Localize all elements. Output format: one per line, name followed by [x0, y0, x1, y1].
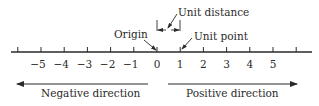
tick-label: 3 — [223, 58, 230, 70]
tick-labels: −5−4−3−2−1012345 — [30, 58, 276, 70]
tick-label: −3 — [77, 58, 92, 70]
unit-distance-label: Unit distance — [178, 6, 249, 18]
tick-label: 2 — [200, 58, 207, 70]
negative-direction-label: Negative direction — [41, 87, 141, 99]
number-line-svg: −5−4−3−2−1012345 Unit distance Unit poin… — [0, 0, 319, 106]
tick-label: 1 — [177, 58, 184, 70]
tick-label: −4 — [53, 58, 69, 70]
origin-pointer — [144, 40, 156, 50]
tick-label: −2 — [100, 58, 115, 70]
unit-point-label: Unit point — [194, 30, 249, 42]
tick-label: −5 — [30, 58, 45, 70]
tick-label: −1 — [123, 58, 138, 70]
tick-label: 5 — [270, 58, 277, 70]
unit-distance-bracket — [157, 14, 180, 31]
number-line-diagram: −5−4−3−2−1012345 Unit distance Unit poin… — [0, 0, 319, 106]
origin-label: Origin — [114, 28, 148, 40]
tick-label: 4 — [246, 58, 253, 70]
tick-marks — [18, 47, 296, 52]
unit-point-pointer — [182, 38, 192, 49]
positive-direction-label: Positive direction — [186, 87, 279, 99]
tick-label: 0 — [154, 58, 161, 70]
